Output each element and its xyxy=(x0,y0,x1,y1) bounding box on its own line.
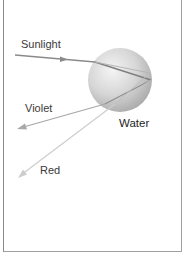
red-label: Red xyxy=(40,165,60,176)
sunlight-label: Sunlight xyxy=(21,39,61,50)
violet-label: Violet xyxy=(25,103,52,114)
violet-arrowhead-icon xyxy=(17,124,27,130)
water-label: Water xyxy=(119,118,149,130)
sunlight-ray xyxy=(15,55,95,62)
sunlight-arrowhead-icon xyxy=(60,57,68,63)
